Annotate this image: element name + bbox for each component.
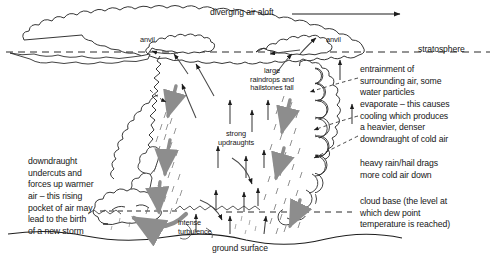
label-heavy-rain: heavy rain/hail drags more cold air down	[360, 158, 492, 181]
label-anvil-right: anvil	[326, 36, 341, 45]
label-entrainment: entrainment of surrounding air, some wat…	[360, 64, 494, 146]
label-stratosphere: stratosphere	[418, 44, 465, 54]
thunderstorm-diagram: diverging air aloft anvil anvil stratosp…	[0, 0, 496, 256]
label-downdraught: downdraught undercuts and forces up warm…	[28, 156, 140, 238]
label-strong-updraughts: strong updraughts	[206, 130, 266, 147]
label-diverging-air-aloft: diverging air aloft	[210, 7, 274, 17]
downdraught-arrows	[159, 86, 300, 226]
label-anvil-left: anvil	[140, 36, 155, 45]
label-intense-turbulence: intense turbulence	[178, 219, 212, 236]
label-large-raindrops: large raindrops and hailstones fall	[236, 67, 308, 93]
label-ground-surface: ground surface	[212, 243, 268, 253]
anvil-underside	[10, 53, 150, 64]
label-cloud-base: cloud base (the level at which dew point…	[360, 196, 494, 231]
